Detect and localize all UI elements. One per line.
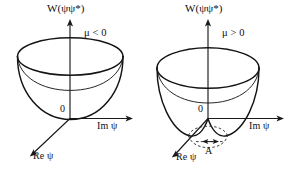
left-condition-label: μ < 0 [84, 28, 107, 39]
left-w-axis [67, 19, 73, 119]
right-panel-title: W(ψψ*) [185, 3, 223, 14]
amplitude-label: A [205, 146, 212, 156]
right-hat-left-wall [157, 68, 189, 136]
right-condition-label: μ > 0 [222, 28, 245, 39]
left-panel-group [18, 19, 134, 157]
right-im-axis-label: Im ψ [249, 121, 269, 131]
left-im-axis-label: Im ψ [97, 121, 117, 131]
potential-figure: W(ψψ*) μ < 0 0 Im ψ Re ψ W(ψψ*) μ > 0 0 … [0, 0, 289, 177]
right-w-axis [205, 19, 211, 119]
left-re-axis-label: Re ψ [33, 151, 53, 161]
right-re-axis-label: Re ψ [176, 152, 196, 162]
right-origin-label: 0 [198, 104, 203, 114]
right-panel-group [157, 19, 284, 158]
left-panel-title: W(ψψ*) [47, 3, 85, 14]
left-origin-label: 0 [60, 104, 65, 114]
amplitude-measure [196, 139, 224, 144]
